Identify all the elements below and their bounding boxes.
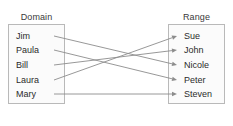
range-member: Sue xyxy=(184,31,200,41)
mapping-arrow xyxy=(54,48,177,65)
range-member: John xyxy=(184,45,204,55)
mapping-arrow xyxy=(54,50,177,81)
domain-member: Mary xyxy=(16,89,36,99)
mapping-diagram: Domain Range JimPaulaBillLauraMary SueJo… xyxy=(0,0,233,126)
range-member: Peter xyxy=(184,75,206,85)
domain-member: Laura xyxy=(16,75,39,85)
domain-member: Jim xyxy=(16,31,30,41)
domain-member: Paula xyxy=(16,45,39,55)
range-member: Nicole xyxy=(184,60,209,70)
mapping-arrow xyxy=(54,36,177,66)
domain-member: Bill xyxy=(16,60,28,70)
mapping-arrow xyxy=(54,36,177,80)
mapping-arrow xyxy=(54,92,177,96)
range-title: Range xyxy=(168,12,225,22)
range-member: Steven xyxy=(184,89,212,99)
domain-title: Domain xyxy=(8,12,65,22)
